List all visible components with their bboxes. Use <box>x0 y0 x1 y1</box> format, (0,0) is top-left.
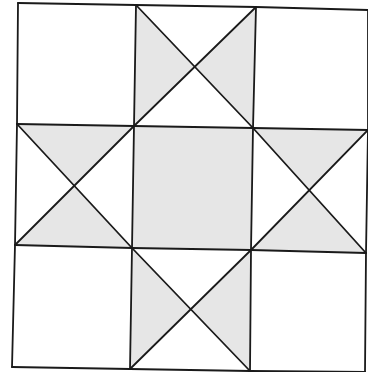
top-middle-triangle-right <box>195 7 256 128</box>
middle-left-triangle-bottom <box>15 186 132 248</box>
middle-left-triangle-top <box>17 124 134 186</box>
grid-v-0-0 <box>17 3 18 124</box>
grid-h-3-1 <box>130 369 250 371</box>
grid-h-3-0 <box>12 367 130 369</box>
grid-h-0-1 <box>136 5 256 7</box>
quilt-block-diagram <box>0 0 368 372</box>
bottom-middle-triangle-right <box>191 250 251 371</box>
grid-v-0-1 <box>15 124 17 245</box>
grid-v-3-2 <box>365 253 366 372</box>
grid-v-0-2 <box>12 245 15 367</box>
grid-v-2-2 <box>250 250 251 371</box>
grid-h-0-2 <box>256 7 368 10</box>
center-square <box>132 126 253 250</box>
top-middle-triangle-left <box>134 5 195 126</box>
bottom-middle-triangle-left <box>130 248 191 369</box>
middle-right-triangle-top <box>253 128 368 190</box>
quilt-svg <box>0 0 368 372</box>
shaded-regions <box>15 5 368 371</box>
grid-h-0-0 <box>18 3 136 5</box>
middle-right-triangle-bottom <box>251 190 366 253</box>
